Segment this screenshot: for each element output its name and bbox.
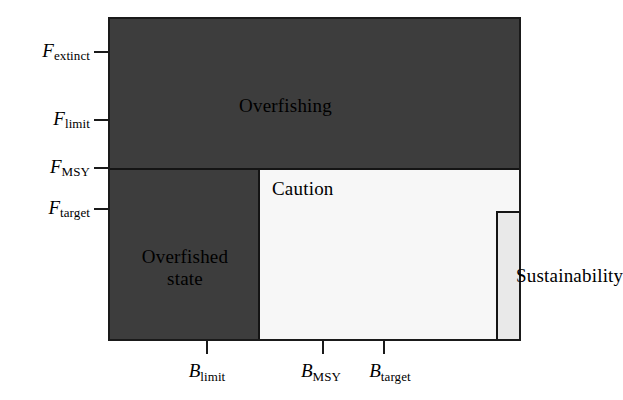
x-tick-base-bmsy: B: [301, 360, 313, 381]
y-tick-sub-ftarget: target: [60, 205, 90, 220]
y-tick-mark-flimit: [94, 119, 108, 121]
x-tick-sub-bmsy: MSY: [313, 369, 341, 384]
y-tick-label-flimit: Flimit: [0, 108, 90, 133]
y-tick-mark-fextinct: [94, 51, 108, 53]
y-tick-base-fextinct: F: [42, 40, 54, 61]
region-sustainability: Sustainability: [496, 211, 519, 339]
y-tick-label-fextinct: Fextinct: [0, 40, 90, 65]
y-tick-sub-fextinct: extinct: [54, 48, 90, 63]
region-label-overfished-state: Overfished state: [110, 246, 260, 291]
plot-area: Overfishing Caution Sustainability Overf…: [108, 17, 521, 341]
y-tick-mark-ftarget: [94, 208, 108, 210]
region-label-sustainability: Sustainability: [516, 265, 623, 287]
y-tick-base-fmsy: F: [50, 156, 62, 177]
region-label-caution: Caution: [272, 178, 334, 200]
x-tick-label-blimit: Blimit: [189, 360, 226, 385]
y-tick-base-ftarget: F: [48, 197, 60, 218]
x-tick-sub-btarget: target: [381, 369, 411, 384]
y-tick-label-fmsy: FMSY: [0, 156, 90, 181]
region-overfished-state: Overfished state: [110, 170, 260, 339]
y-tick-label-ftarget: Ftarget: [0, 197, 90, 222]
region-caution: Caution Sustainability: [260, 170, 519, 339]
x-tick-mark-blimit: [206, 341, 208, 354]
region-overfishing: Overfishing: [110, 19, 519, 168]
y-tick-sub-flimit: limit: [65, 116, 90, 131]
lower-band: Caution Sustainability Overfished state: [110, 168, 519, 339]
x-tick-label-btarget: Btarget: [369, 360, 411, 385]
x-tick-base-btarget: B: [369, 360, 381, 381]
region-label-overfishing: Overfishing: [110, 95, 519, 117]
x-tick-label-bmsy: BMSY: [301, 360, 341, 385]
x-tick-mark-bmsy: [322, 341, 324, 354]
y-tick-mark-fmsy: [94, 167, 108, 169]
x-tick-mark-btarget: [383, 341, 385, 354]
y-tick-base-flimit: F: [53, 108, 65, 129]
x-tick-sub-blimit: limit: [200, 369, 225, 384]
y-tick-sub-fmsy: MSY: [62, 164, 90, 179]
x-tick-base-blimit: B: [189, 360, 201, 381]
